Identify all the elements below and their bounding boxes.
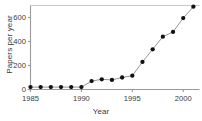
- data-point-marker: [161, 35, 165, 39]
- data-point-marker: [110, 78, 114, 82]
- data-line: [31, 7, 194, 87]
- y-axis-ticks: 0200400600: [13, 13, 30, 94]
- data-point-marker: [100, 77, 104, 81]
- data-point-marker: [28, 85, 32, 89]
- data-point-marker: [59, 85, 63, 89]
- data-point-marker: [69, 85, 73, 89]
- data-point-marker: [181, 16, 185, 20]
- y-tick-label: 200: [13, 61, 26, 70]
- x-tick-label: 1990: [73, 94, 90, 103]
- data-point-marker: [89, 79, 93, 83]
- data-point-marker: [171, 30, 175, 34]
- data-point-marker: [191, 5, 195, 9]
- data-point-marker: [151, 47, 155, 51]
- y-tick-label: 600: [13, 13, 26, 22]
- data-point-marker: [130, 74, 134, 78]
- data-point-marker: [79, 85, 83, 89]
- data-point-marker: [49, 85, 53, 89]
- plot-frame: [31, 6, 200, 90]
- x-tick-label: 1995: [124, 94, 141, 103]
- data-point-marker: [140, 60, 144, 64]
- data-point-marker: [39, 85, 43, 89]
- x-axis-ticks: 1985199019952000: [22, 90, 192, 103]
- x-tick-label: 1985: [22, 94, 39, 103]
- series-line: [31, 7, 194, 87]
- y-tick-label: 400: [13, 37, 26, 46]
- data-markers: [28, 5, 195, 90]
- plot-area: 0200400600 1985199019952000: [0, 0, 202, 121]
- data-point-marker: [120, 75, 124, 79]
- chart-figure: Papers per year Year 0200400600 19851990…: [0, 0, 202, 121]
- x-tick-label: 2000: [175, 94, 192, 103]
